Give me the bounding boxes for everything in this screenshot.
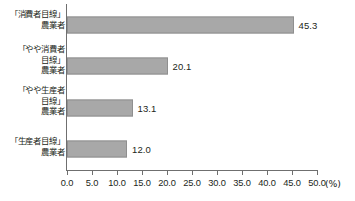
x-tick-label-4: 20.0 bbox=[158, 178, 176, 188]
x-tick-8 bbox=[267, 171, 268, 175]
category-label-3: 「生産者目線」 農業者 bbox=[0, 136, 65, 157]
x-tick-label-8: 40.0 bbox=[258, 178, 276, 188]
x-tick-label-3: 15.0 bbox=[133, 178, 151, 188]
category-label-2: 「やや生産者 目線」 農業者 bbox=[0, 85, 65, 117]
category-label-0: 「消費者目線」 農業者 bbox=[0, 9, 65, 30]
x-tick-2 bbox=[117, 171, 118, 175]
bar-row-2: 13.1 bbox=[67, 87, 317, 129]
plot-area: 45.3 20.1 13.1 12.0 bbox=[67, 4, 317, 170]
x-tick-label-7: 35.0 bbox=[233, 178, 251, 188]
x-tick-7 bbox=[242, 171, 243, 175]
bar-row-3: 12.0 bbox=[67, 129, 317, 171]
x-tick-1 bbox=[92, 171, 93, 175]
x-axis-unit-label: (%) bbox=[325, 178, 341, 189]
category-label-1: 「やや消費者 目線」 農業者 bbox=[0, 44, 65, 76]
x-tick-0 bbox=[67, 171, 68, 175]
x-tick-4 bbox=[167, 171, 168, 175]
bar-value-2: 13.1 bbox=[138, 102, 157, 113]
bar-value-1: 20.1 bbox=[173, 61, 192, 72]
bar-3 bbox=[67, 141, 127, 158]
x-tick-label-6: 30.0 bbox=[208, 178, 226, 188]
x-tick-label-0: 0.0 bbox=[61, 178, 74, 188]
x-tick-10 bbox=[317, 171, 318, 175]
x-tick-3 bbox=[142, 171, 143, 175]
bar-value-0: 45.3 bbox=[299, 19, 318, 30]
x-tick-label-2: 10.0 bbox=[108, 178, 126, 188]
bar-value-3: 12.0 bbox=[132, 144, 151, 155]
bar-chart: 「消費者目線」 農業者 「やや消費者 目線」 農業者 「やや生産者 目線」 農業… bbox=[0, 0, 355, 201]
bar-0 bbox=[67, 16, 294, 33]
x-tick-6 bbox=[217, 171, 218, 175]
bar-row-0: 45.3 bbox=[67, 4, 317, 46]
x-tick-5 bbox=[192, 171, 193, 175]
x-tick-9 bbox=[292, 171, 293, 175]
x-tick-label-5: 25.0 bbox=[183, 178, 201, 188]
bar-1 bbox=[67, 58, 168, 75]
x-tick-label-9: 45.0 bbox=[283, 178, 301, 188]
x-tick-label-1: 5.0 bbox=[86, 178, 99, 188]
bar-row-1: 20.1 bbox=[67, 46, 317, 88]
bar-2 bbox=[67, 99, 133, 116]
x-tick-label-10: 50.0 bbox=[308, 178, 326, 188]
